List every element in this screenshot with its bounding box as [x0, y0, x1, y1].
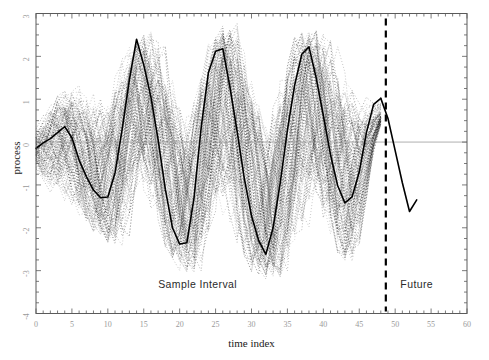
chart-canvas: 051015202530354045505560-4-3-2-10123time…	[0, 0, 489, 360]
y-tick-label: -4	[22, 313, 31, 320]
x-tick-label: 0	[34, 320, 38, 329]
y-tick-label: 3	[22, 15, 31, 19]
x-tick-label: 60	[463, 320, 471, 329]
x-tick-label: 30	[248, 320, 256, 329]
x-tick-label: 5	[70, 320, 74, 329]
x-axis-title: time index	[228, 337, 275, 349]
future-label: Future	[400, 278, 433, 290]
chart-figure: 051015202530354045505560-4-3-2-10123time…	[0, 0, 489, 360]
sample-interval-label: Sample Interval	[158, 278, 237, 290]
y-tick-label: 2	[22, 57, 31, 61]
x-tick-label: 40	[319, 320, 327, 329]
x-tick-label: 55	[427, 320, 435, 329]
y-tick-label: 1	[22, 100, 31, 104]
x-tick-label: 35	[283, 320, 291, 329]
x-tick-label: 10	[104, 320, 112, 329]
x-tick-label: 15	[140, 320, 148, 329]
y-tick-label: -1	[22, 185, 31, 192]
y-tick-label: 0	[22, 143, 31, 147]
ensemble-path	[36, 31, 381, 275]
x-tick-label: 50	[391, 320, 399, 329]
x-tick-label: 20	[176, 320, 184, 329]
y-axis-title-text: process	[10, 128, 22, 188]
x-tick-label: 45	[355, 320, 363, 329]
x-tick-label: 25	[212, 320, 220, 329]
y-tick-label: -3	[22, 270, 31, 277]
y-tick-label: -2	[22, 227, 31, 234]
